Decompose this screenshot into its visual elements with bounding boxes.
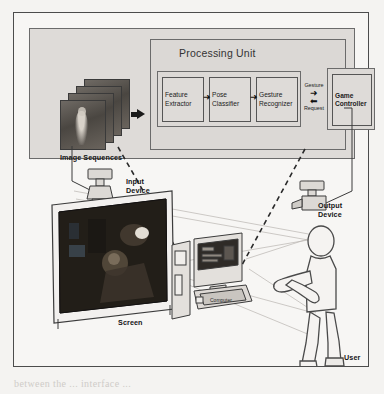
bleed-line-5: between the ... interface ... [14, 378, 131, 389]
projection-screen [52, 191, 174, 329]
screen-label: Screen [118, 318, 143, 327]
user-label: User [344, 353, 360, 362]
input-device-label-line1: Input [126, 177, 144, 186]
output-device-label-line1: Output [318, 201, 342, 210]
output-device-label-line2: Device [318, 210, 342, 219]
figure-frame: Image Sequences Processing Unit Feature … [13, 12, 369, 367]
computer-badge-text: Computer [210, 297, 232, 303]
input-device-label: Input Device [126, 177, 150, 195]
input-device-label-line2: Device [126, 186, 150, 195]
output-device-label: Output Device [318, 201, 342, 219]
scene-drawing: Computer [14, 13, 368, 366]
